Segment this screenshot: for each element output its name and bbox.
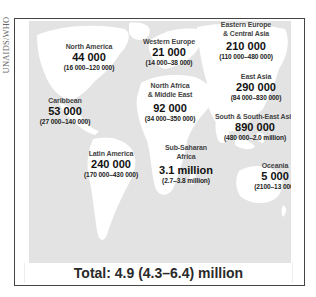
region-range: (14 000–38 000) — [137, 58, 201, 67]
region-name-line2: & Middle East — [135, 90, 205, 99]
map-frame: North America 44 000 (16 000–120 000) Ca… — [14, 18, 305, 286]
region-north-africa-middle-east: North Africa & Middle East 92 000 (34 00… — [135, 81, 205, 123]
region-name: Oceania — [247, 161, 291, 170]
region-name: East Asia — [221, 72, 291, 81]
region-value: 53 000 — [29, 105, 103, 117]
region-value: 5 000 — [247, 170, 291, 182]
region-name: North America — [51, 42, 127, 51]
region-range: (2100–13 000) — [247, 182, 291, 191]
source-credit: UNAIDS/WHO — [1, 5, 11, 85]
region-oceania: Oceania 5 000 (2100–13 000) — [247, 161, 291, 191]
region-name-line2: & Central Asia — [211, 29, 281, 38]
region-range: (34 000–350 000) — [135, 114, 205, 123]
region-value: 210 000 — [211, 40, 281, 52]
region-name: Caribbean — [29, 96, 103, 105]
region-south-southeast-asia: South & South-East Asia 890 000 (480 000… — [213, 112, 291, 142]
region-name-line1: Sub-Saharan — [151, 143, 221, 152]
source-label: UNAIDS/WHO — [1, 17, 11, 74]
region-range: (27 000–140 000) — [29, 117, 103, 126]
region-caribbean: Caribbean 53 000 (27 000–140 000) — [29, 96, 103, 126]
region-value: 890 000 — [213, 121, 291, 133]
region-range: (110 000–480 000) — [211, 52, 281, 61]
region-range: (2.7–3.8 million) — [151, 176, 221, 185]
region-sub-saharan-africa: Sub-Saharan Africa 3.1 million (2.7–3.8 … — [151, 143, 221, 185]
region-western-europe: Western Europe 21 000 (14 000–38 000) — [137, 37, 201, 67]
region-value: 290 000 — [221, 81, 291, 93]
region-value: 92 000 — [135, 102, 205, 114]
region-latin-america: Latin America 240 000 (170 000–430 000) — [71, 149, 151, 179]
region-east-asia: East Asia 290 000 (84 000–830 000) — [221, 72, 291, 102]
region-range: (84 000–830 000) — [221, 93, 291, 102]
world-map: North America 44 000 (16 000–120 000) Ca… — [29, 21, 291, 264]
region-north-america: North America 44 000 (16 000–120 000) — [51, 42, 127, 72]
region-name-line1: Eastern Europe — [211, 21, 281, 29]
region-eastern-europe-central-asia: Eastern Europe & Central Asia 210 000 (1… — [211, 21, 281, 61]
total-estimate: Total: 4.9 (4.3–6.4) million — [25, 263, 292, 283]
region-name: South & South-East Asia — [213, 112, 291, 121]
region-value: 21 000 — [137, 46, 201, 58]
region-value: 240 000 — [71, 158, 151, 170]
region-name-line2: Africa — [151, 152, 221, 161]
region-range: (16 000–120 000) — [51, 63, 127, 72]
region-value: 44 000 — [51, 51, 127, 63]
region-name: Latin America — [71, 149, 151, 158]
region-name: Western Europe — [137, 37, 201, 46]
region-range: (480 000–2.0 million) — [213, 133, 291, 142]
region-value: 3.1 million — [151, 164, 221, 176]
region-range: (170 000–430 000) — [71, 170, 151, 179]
region-name-line1: North Africa — [135, 81, 205, 90]
